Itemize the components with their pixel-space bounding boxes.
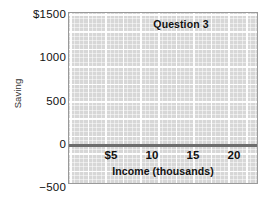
y-tick-label-minus-500: −500 xyxy=(2,181,66,193)
x-tick-label-5: $5 xyxy=(91,149,131,161)
x-tick-label-15: 15 xyxy=(173,149,213,161)
zero-baseline xyxy=(69,144,257,147)
y-tick-label-1500: $1500 xyxy=(2,8,66,20)
x-tick-label-20: 20 xyxy=(214,149,254,161)
chart-figure: Saving $1500 1000 500 0 −500 Question 3 … xyxy=(0,0,272,202)
x-axis-title: Income (thousands) xyxy=(69,165,257,177)
y-tick-label-1000: 1000 xyxy=(2,51,66,63)
x-tick-label-10: 10 xyxy=(132,149,172,161)
y-axis-tick-labels: $1500 1000 500 0 −500 xyxy=(0,0,66,202)
y-tick-label-0: 0 xyxy=(2,138,66,150)
chart-title: Question 3 xyxy=(69,18,257,30)
plot-area: Question 3 $5 10 15 20 Income (thousands… xyxy=(68,12,258,184)
y-tick-label-500: 500 xyxy=(2,95,66,107)
x-axis-tick-labels: $5 10 15 20 xyxy=(69,149,257,165)
